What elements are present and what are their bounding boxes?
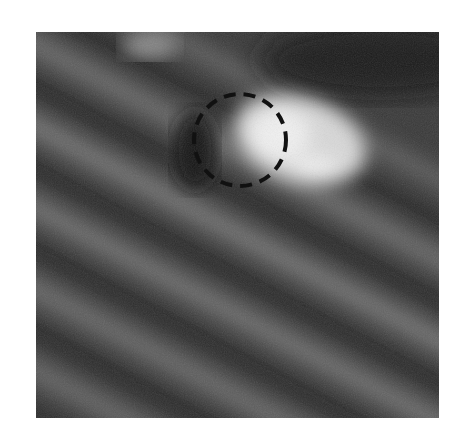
micrograph-canvas: [36, 32, 439, 418]
micrograph-image: [36, 32, 439, 418]
